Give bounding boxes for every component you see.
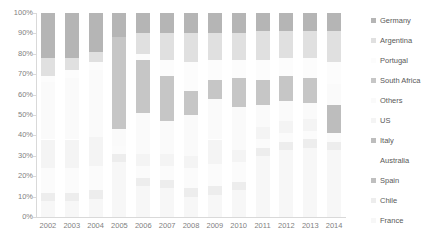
plot-area (36, 13, 346, 217)
legend-item-italy[interactable]: Italy (371, 130, 426, 150)
y-tick-label: 0% (22, 213, 33, 221)
bar-segment (232, 107, 246, 150)
bar-stack (208, 13, 222, 217)
legend-item-france[interactable]: France (371, 210, 426, 230)
legend-swatch-icon (371, 98, 376, 103)
bar-segment (327, 105, 341, 134)
bar-segment (41, 13, 55, 58)
bar-segment (256, 105, 270, 127)
legend-label: France (380, 216, 403, 225)
y-tick-mark (33, 95, 36, 96)
legend-item-south-africa[interactable]: South Africa (371, 70, 426, 90)
bar-stack (279, 13, 293, 217)
legend-label: Argentina (380, 36, 412, 45)
legend-label: Others (380, 96, 403, 105)
bar-segment (208, 80, 222, 98)
legend-item-chile[interactable]: Chile (371, 190, 426, 210)
y-tick-mark (33, 74, 36, 75)
legend-item-portugal[interactable]: Portugal (371, 50, 426, 70)
bar-segment (303, 148, 317, 217)
bar-segment (256, 156, 270, 217)
legend-item-others[interactable]: Others (371, 90, 426, 110)
y-tick-mark (33, 197, 36, 198)
legend-label: Spain (380, 176, 399, 185)
bar-segment (89, 190, 103, 198)
bar-segment (41, 168, 55, 192)
y-tick-mark (33, 115, 36, 116)
bar-segment (136, 33, 150, 53)
bar-stack (160, 13, 174, 217)
legend-swatch-icon (371, 178, 376, 183)
legend-item-us[interactable]: US (371, 110, 426, 130)
bar-segment (327, 62, 341, 84)
bar-segment (256, 139, 270, 147)
bar-segment (41, 58, 55, 76)
bar-segment (303, 103, 317, 119)
legend-swatch-icon (371, 38, 376, 43)
bar-segment (65, 201, 79, 217)
bar-segment (184, 168, 198, 188)
bar-segment (327, 142, 341, 150)
bar-stack (41, 13, 55, 217)
y-tick-label: 40% (18, 131, 33, 139)
bar-stack (232, 13, 246, 217)
legend-label: Australia (380, 156, 409, 165)
stacked-bar-chart: 100%90%80%70%60%50%40%30%20%10%0% 200220… (0, 0, 426, 240)
legend-swatch-icon (371, 118, 376, 123)
y-tick-label: 10% (18, 193, 33, 201)
bar-segment (65, 58, 79, 70)
y-tick-mark (33, 156, 36, 157)
bar-segment (160, 121, 174, 154)
bar-segment (256, 31, 270, 60)
x-axis-line (36, 217, 346, 218)
bar-segment (160, 154, 174, 166)
bar-segment (41, 193, 55, 201)
bar-segment (160, 60, 174, 76)
bar-segment (327, 150, 341, 217)
bar-segment (279, 133, 293, 141)
legend-item-spain[interactable]: Spain (371, 170, 426, 190)
bar-segment (256, 80, 270, 104)
bar-segment (327, 31, 341, 62)
legend-label: Germany (380, 16, 411, 25)
bar-stack (89, 13, 103, 217)
legend-swatch-icon (371, 138, 376, 143)
bar-segment (65, 168, 79, 192)
legend-swatch-icon (371, 218, 376, 223)
bar-segment (208, 186, 222, 194)
chart-legend: GermanyArgentinaPortugalSouth AfricaOthe… (371, 10, 426, 230)
bar-segment (136, 154, 150, 166)
bar-stack (112, 13, 126, 217)
bar-segment (89, 166, 103, 190)
bar-segment (303, 58, 317, 78)
legend-label: Italy (380, 136, 394, 145)
bar-segment (160, 76, 174, 121)
bar-segment (232, 150, 246, 162)
bar-segment (232, 162, 246, 182)
bar-segment (279, 150, 293, 217)
bar-stack (184, 13, 198, 217)
bar-segment (256, 13, 270, 31)
legend-item-germany[interactable]: Germany (371, 10, 426, 30)
bar-segment (279, 31, 293, 58)
bar-segment (184, 13, 198, 33)
bar-segment (65, 13, 79, 58)
bar-segment (136, 13, 150, 33)
bar-segment (208, 195, 222, 217)
bar-segment (184, 115, 198, 156)
bar-stack (136, 13, 150, 217)
bar-segment (89, 70, 103, 137)
legend-swatch-icon (371, 158, 376, 163)
bar-segment (136, 54, 150, 60)
bar-segment (184, 197, 198, 217)
legend-swatch-icon (371, 18, 376, 23)
bar-segment (65, 78, 79, 139)
bar-segment (279, 121, 293, 133)
bar-segment (184, 156, 198, 168)
legend-item-argentina[interactable]: Argentina (371, 30, 426, 50)
bar-segment (136, 186, 150, 217)
legend-label: South Africa (380, 76, 420, 85)
legend-item-australia[interactable]: Australia (371, 150, 426, 170)
bar-segment (41, 82, 55, 139)
bar-segment (327, 84, 341, 104)
